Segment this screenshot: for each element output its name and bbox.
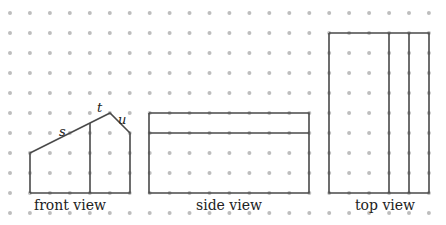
grid-dot [307, 211, 311, 215]
grid-dot [267, 211, 271, 215]
grid-dot [48, 111, 52, 115]
grid-dot [208, 51, 212, 55]
grid-dot [287, 151, 291, 155]
grid-dot [427, 211, 431, 215]
grid-dot [68, 111, 72, 115]
grid-dot [327, 11, 331, 15]
grid-dot [168, 91, 172, 95]
grid-dot [247, 91, 251, 95]
grid-dot [48, 71, 52, 75]
grid-dot [188, 171, 192, 175]
grid-dot [88, 91, 92, 95]
grid-dot [387, 11, 391, 15]
grid-dot [88, 71, 92, 75]
grid-dot [108, 151, 112, 155]
grid-dot [407, 11, 411, 15]
grid-dot [367, 91, 371, 95]
grid-dot [227, 51, 231, 55]
grid-dot [148, 11, 152, 15]
orthographic-views-diagram: front view side view top view s t u [0, 0, 446, 225]
grid-dot [28, 71, 32, 75]
grid-dot [188, 11, 192, 15]
grid-dot [188, 211, 192, 215]
grid-dot [307, 31, 311, 35]
grid-dot [168, 11, 172, 15]
grid-dot [347, 91, 351, 95]
grid-dot [267, 171, 271, 175]
top-view-label: top view [355, 197, 415, 213]
grid-dot [227, 91, 231, 95]
grid-dot [108, 31, 112, 35]
grid-dot [108, 131, 112, 135]
grid-dot [367, 51, 371, 55]
grid-dot [347, 51, 351, 55]
grid-dot [227, 31, 231, 35]
grid-dot [208, 71, 212, 75]
grid-dot [287, 171, 291, 175]
grid-dot [347, 211, 351, 215]
grid-dot [208, 171, 212, 175]
grid-dot [48, 91, 52, 95]
grid-dot [8, 131, 12, 135]
grid-dot [188, 151, 192, 155]
grid-dot [68, 151, 72, 155]
grid-dot [28, 91, 32, 95]
grid-dot [267, 51, 271, 55]
grid-dot [128, 91, 132, 95]
grid-dot [28, 31, 32, 35]
front-view-edge [30, 113, 130, 193]
grid-dot [247, 71, 251, 75]
grid-dot [108, 91, 112, 95]
grid-dot [347, 151, 351, 155]
grid-dot [68, 71, 72, 75]
grid-dot [108, 11, 112, 15]
grid-dot [208, 91, 212, 95]
grid-dot [8, 151, 12, 155]
grid-dot [68, 91, 72, 95]
grid-dot [8, 71, 12, 75]
front-view-label: front view [34, 197, 106, 213]
grid-dot [347, 11, 351, 15]
grid-dot [208, 151, 212, 155]
grid-dot [287, 71, 291, 75]
grid-dot [48, 31, 52, 35]
grid-dot [128, 211, 132, 215]
grid-dot [168, 211, 172, 215]
grid-dot [48, 171, 52, 175]
grid-dot [347, 111, 351, 115]
grid-dot [168, 31, 172, 35]
grid-dot [247, 31, 251, 35]
grid-dot [247, 11, 251, 15]
grid-dot [48, 51, 52, 55]
grid-dot [267, 31, 271, 35]
grid-dot [88, 31, 92, 35]
grid-dot [88, 51, 92, 55]
grid-dot [128, 71, 132, 75]
grid-dot [148, 31, 152, 35]
grid-dot [148, 51, 152, 55]
grid-dot [48, 131, 52, 135]
grid-dot [8, 171, 12, 175]
grid-dot [347, 71, 351, 75]
grid-dot [148, 91, 152, 95]
edge-label-t: t [97, 100, 103, 115]
grid-dot [88, 111, 92, 115]
grid-dot [88, 11, 92, 15]
grid-dot [28, 211, 32, 215]
grid-dot [168, 171, 172, 175]
grid-dot [28, 11, 32, 15]
grid-dot [128, 111, 132, 115]
grid-dot [247, 171, 251, 175]
grid-dot [168, 71, 172, 75]
grid-dot [108, 211, 112, 215]
grid-dot [307, 11, 311, 15]
grid-dot [48, 11, 52, 15]
grid-dot [128, 11, 132, 15]
grid-dot [327, 211, 331, 215]
grid-dot [227, 151, 231, 155]
grid-dot [8, 111, 12, 115]
grid-dot [367, 151, 371, 155]
grid-dot [247, 51, 251, 55]
diagram-svg: front view side view top view s t u [0, 0, 446, 225]
grid-dot [367, 71, 371, 75]
